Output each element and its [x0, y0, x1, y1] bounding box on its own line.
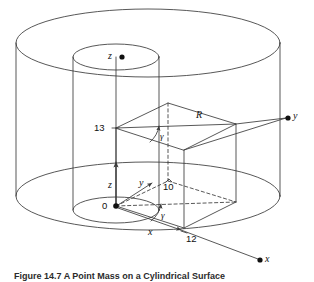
angle-label-top: γ — [160, 132, 164, 141]
box-edge-bottom-front-left — [116, 206, 184, 228]
coordinate-box — [116, 103, 236, 228]
figure-root: z 13 R γ z y 10 0 γ x 12 y x Figure 14.7… — [0, 0, 314, 282]
figure-caption: Figure 14.7 A Point Mass on a Cylindrica… — [14, 271, 304, 282]
outer-cylinder-bottom-rim — [16, 162, 280, 230]
figure-drawing — [0, 0, 314, 282]
outer-cylinder — [16, 9, 280, 230]
angle-label-bottom: γ — [161, 211, 165, 220]
origin-dot — [113, 203, 119, 209]
angle-arc-bottom — [151, 204, 161, 221]
box-top-face — [116, 103, 236, 150]
x-value-label: 12 — [186, 234, 197, 244]
radius-construction-bottom — [116, 202, 236, 206]
y-value-label: 10 — [163, 182, 174, 192]
y-axis-endpoint-dot — [285, 115, 290, 120]
y-axis-long-line — [236, 118, 286, 124]
x-axis-endpoint-dot — [257, 257, 262, 262]
outer-cylinder-top-rim — [16, 9, 280, 77]
angle-arc-bottom-path — [151, 204, 161, 221]
y-axis-endpoint-label: y — [293, 111, 297, 121]
radius-line-top — [116, 124, 236, 128]
box-edge-bottom-back-right — [168, 181, 236, 202]
x-axis-local-label: x — [148, 227, 152, 237]
radius-label: R — [196, 110, 202, 120]
z-axis-endpoint-dot — [119, 54, 124, 59]
y-axis-long-line-2 — [184, 118, 286, 150]
origin-label: 0 — [102, 201, 107, 211]
x-axis-endpoint-label: x — [265, 254, 269, 264]
z-axis-endpoint-label: z — [108, 51, 112, 61]
box-edge-bottom-front-right — [184, 202, 236, 228]
radius-line-bottom — [116, 202, 236, 206]
z-coordinate-label: z — [108, 180, 112, 190]
height-value-label: 13 — [94, 123, 105, 133]
y-axis-local-label: y — [139, 178, 143, 188]
radius-construction-top — [116, 124, 236, 128]
y-axis-local-arrow — [118, 183, 152, 205]
y-axis-group — [118, 115, 291, 205]
